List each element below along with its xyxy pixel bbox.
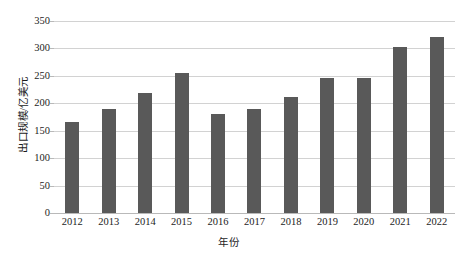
bar-2013 — [102, 109, 116, 213]
bar-slot — [309, 21, 345, 213]
y-tick-label: 300 — [14, 43, 50, 53]
x-tick-label-2017: 2017 — [236, 216, 272, 227]
bar-series — [54, 21, 455, 213]
bar-slot — [419, 21, 455, 213]
bar-slot — [236, 21, 272, 213]
plot-area — [54, 21, 455, 213]
x-tick-label-2014: 2014 — [127, 216, 163, 227]
bar-slot — [54, 21, 90, 213]
x-tick-label-2016: 2016 — [200, 216, 236, 227]
bar-chart: 出口规模/亿美元 050100150200250300350 201220132… — [0, 0, 457, 270]
bar-slot — [273, 21, 309, 213]
bar-2016 — [211, 114, 225, 213]
bar-2021 — [393, 47, 407, 213]
x-tick-label-2020: 2020 — [346, 216, 382, 227]
y-tick-label: 250 — [14, 71, 50, 81]
bar-2017 — [247, 109, 261, 213]
x-tick-label-2013: 2013 — [90, 216, 126, 227]
bar-2018 — [284, 97, 298, 213]
y-tick-label: 100 — [14, 153, 50, 163]
y-tick-label: 150 — [14, 126, 50, 136]
bar-slot — [127, 21, 163, 213]
x-tick-label-2022: 2022 — [419, 216, 455, 227]
bar-2012 — [65, 122, 79, 213]
bar-2014 — [138, 93, 152, 213]
bar-slot — [163, 21, 199, 213]
x-tick-label-2015: 2015 — [163, 216, 199, 227]
x-axis-ticks: 2012201320142015201620172018201920202021… — [54, 216, 455, 232]
x-tick-label-2019: 2019 — [309, 216, 345, 227]
bar-2015 — [175, 73, 189, 213]
x-axis-title: 年份 — [0, 234, 457, 249]
gridline-0 — [54, 213, 455, 214]
bar-2019 — [320, 78, 334, 213]
y-tick-label: 0 — [14, 208, 50, 218]
x-tick-label-2018: 2018 — [273, 216, 309, 227]
x-tick-label-2021: 2021 — [382, 216, 418, 227]
x-tick-label-2012: 2012 — [54, 216, 90, 227]
bar-slot — [200, 21, 236, 213]
y-tick-label: 200 — [14, 98, 50, 108]
bar-2020 — [357, 78, 371, 213]
bar-2022 — [430, 37, 444, 213]
bar-slot — [346, 21, 382, 213]
y-tick-label: 50 — [14, 181, 50, 191]
bar-slot — [382, 21, 418, 213]
y-tick-label: 350 — [14, 16, 50, 26]
bar-slot — [90, 21, 126, 213]
